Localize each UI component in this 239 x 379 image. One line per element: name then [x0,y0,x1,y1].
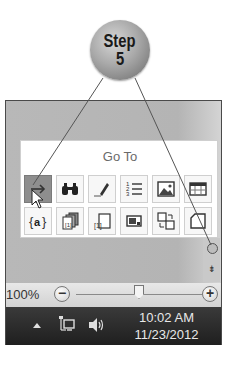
page-icon [188,211,208,231]
numbered-list-icon: 123 [124,179,144,199]
find-binoculars-icon [60,179,80,199]
edit-button[interactable] [88,175,116,203]
find-button[interactable] [56,175,84,203]
network-icon[interactable] [58,315,76,333]
zoom-out-button[interactable]: − [54,286,70,302]
pages-button[interactable]: [1] [56,207,84,235]
svg-text:[1]: [1] [94,222,102,230]
swap-button[interactable] [152,207,180,235]
field-button[interactable]: {a} [24,207,52,235]
show-hidden-icons-icon[interactable] [33,323,41,328]
popup-title: Go To [21,149,219,164]
picture-button[interactable] [152,175,180,203]
svg-text:3: 3 [126,191,130,197]
step-number: 5 [116,50,124,68]
browse-object-button[interactable] [207,243,218,254]
step-callout-bubble: Step 5 [90,20,150,80]
page-bracket-icon: [1] [92,211,112,231]
page-button[interactable] [184,207,212,235]
table-icon [188,179,208,199]
taskbar: 10:02 AM 11/23/2012 [6,307,221,345]
clock-date: 11/23/2012 [119,326,214,343]
list-button[interactable]: 123 [120,175,148,203]
clock-time: 10:02 AM [119,309,214,326]
text-box-icon [124,211,144,231]
pencil-icon [92,179,112,199]
zoom-in-button[interactable]: + [202,286,218,302]
swap-objects-icon [156,211,176,231]
next-page-button[interactable]: ⇟ [205,262,219,276]
step-label: Step [104,32,136,50]
svg-text:[1]: [1] [65,222,72,228]
picture-icon [156,179,176,199]
zoom-slider-thumb[interactable] [134,285,144,299]
page-number-button[interactable]: [1] [88,207,116,235]
text-box-button[interactable] [120,207,148,235]
volume-icon[interactable] [88,317,106,333]
svg-text:}: } [42,214,47,229]
zoom-bar: 100% − + [6,283,221,307]
field-code-icon: {a} [28,211,48,231]
go-to-popup: Go To 123 {a} [1] [1] [20,140,218,238]
table-button[interactable] [184,175,212,203]
mouse-cursor-icon [31,189,45,209]
svg-text:a: a [34,216,41,228]
clock[interactable]: 10:02 AM 11/23/2012 [119,309,214,343]
stacked-pages-icon: [1] [60,211,80,231]
zoom-level[interactable]: 100% [6,287,39,302]
